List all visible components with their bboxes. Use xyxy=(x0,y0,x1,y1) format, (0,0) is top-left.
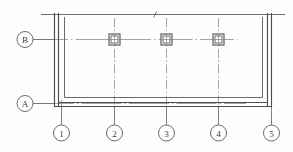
horizontal-grid-lines xyxy=(34,40,246,104)
floor-plan-svg: B A 1 2 3 4 5 xyxy=(0,0,293,152)
drawing-canvas: B A 1 2 3 4 5 xyxy=(0,0,293,152)
grid-bubble-B[interactable]: B xyxy=(17,32,33,48)
top-reference-line-group xyxy=(41,12,285,18)
grid-bubble-5[interactable]: 5 xyxy=(264,125,280,141)
bubble-leaders xyxy=(33,40,272,126)
grid-bubble-3-label: 3 xyxy=(164,129,169,139)
grid-bubble-A[interactable]: A xyxy=(17,96,33,112)
grid-bubble-2-label: 2 xyxy=(112,129,117,139)
inner-slab-outline xyxy=(65,17,263,98)
grid-bubble-4-label: 4 xyxy=(216,129,221,139)
wall-assembly xyxy=(54,13,272,107)
letter-bubbles: B A xyxy=(17,32,33,112)
grid-bubble-3[interactable]: 3 xyxy=(159,125,175,141)
grid-bubble-4[interactable]: 4 xyxy=(211,125,227,141)
grid-bubble-1[interactable]: 1 xyxy=(54,125,70,141)
number-bubbles: 1 2 3 4 5 xyxy=(54,125,280,141)
grid-bubble-5-label: 5 xyxy=(269,129,274,139)
grid-bubble-1-label: 1 xyxy=(59,129,64,139)
grid-bubble-2[interactable]: 2 xyxy=(107,125,123,141)
grid-bubble-A-label: A xyxy=(22,99,29,109)
grid-bubble-B-label: B xyxy=(22,35,28,45)
